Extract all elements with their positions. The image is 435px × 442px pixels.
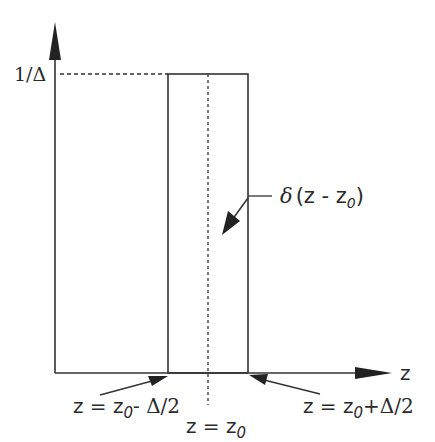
y-tick-label: 1/Δ xyxy=(14,63,46,85)
delta-pointer-arrowhead-icon xyxy=(222,211,240,235)
right-edge-arrowhead-icon xyxy=(249,374,268,385)
left-edge-label: z = z0- Δ/2 xyxy=(73,394,180,422)
delta-function-label: δ(z - z0) xyxy=(280,184,364,211)
center-label: z = z0 xyxy=(186,414,246,442)
right-edge-pointer-line xyxy=(264,380,320,394)
right-edge-label: z = z0+Δ/2 xyxy=(303,394,414,422)
x-axis-arrowhead-icon xyxy=(355,367,392,379)
x-axis-label: z xyxy=(400,361,411,385)
y-axis-arrowhead-icon xyxy=(49,22,61,60)
left-edge-pointer-line xyxy=(100,381,152,395)
left-edge-arrowhead-icon xyxy=(148,376,168,386)
delta-pulse-diagram: 1/Δ z δ(z - z0) z = z0- Δ/2 z = z0 z = z… xyxy=(0,0,435,442)
